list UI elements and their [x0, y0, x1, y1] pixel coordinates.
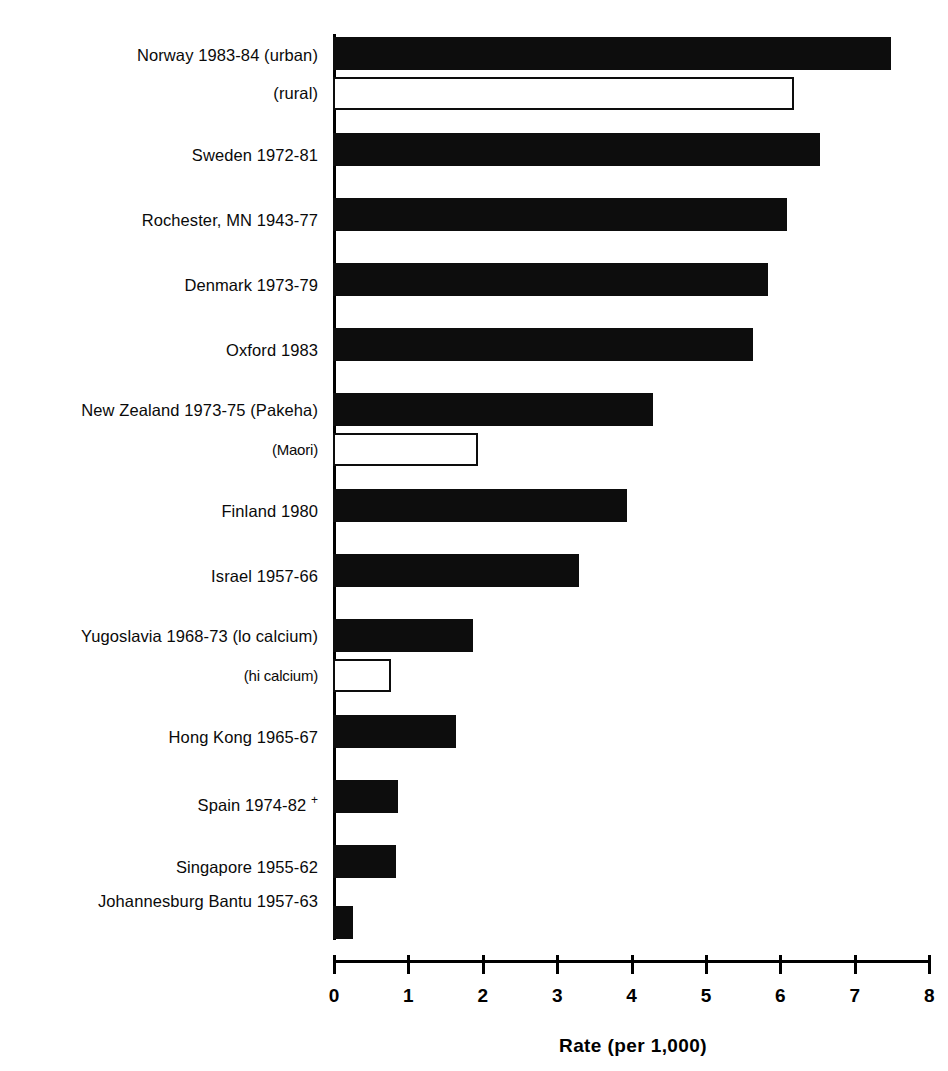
- category-label: (rural): [0, 85, 318, 102]
- x-axis-tick-label: 0: [319, 986, 349, 1005]
- category-label: Denmark 1973-79: [0, 277, 318, 294]
- x-axis-tick-label: 2: [468, 986, 498, 1005]
- category-label: Rochester, MN 1943-77: [0, 212, 318, 229]
- x-axis-tick-label: 8: [914, 986, 944, 1005]
- bar: [333, 845, 396, 878]
- x-axis-tick: [556, 955, 559, 974]
- category-label: (hi calcium): [0, 668, 318, 683]
- x-axis-tick-label: 1: [393, 986, 423, 1005]
- x-axis-tick: [407, 955, 410, 974]
- category-label-column: Norway 1983-84 (urban)(rural)Sweden 1972…: [0, 0, 318, 930]
- bar: [333, 489, 627, 522]
- bar: [333, 393, 653, 426]
- x-axis-tick: [631, 955, 634, 974]
- category-label: Johannesburg Bantu 1957-63: [0, 893, 318, 910]
- x-axis-title: Rate (per 1,000): [333, 1036, 933, 1055]
- bar: [333, 715, 456, 748]
- category-label: Norway 1983-84 (urban): [0, 47, 318, 64]
- category-label: Hong Kong 1965-67: [0, 729, 318, 746]
- x-axis-tick: [779, 955, 782, 974]
- bar: [333, 263, 768, 296]
- bar: [333, 133, 820, 166]
- x-axis-tick-label: 5: [691, 986, 721, 1005]
- x-axis-tick: [705, 955, 708, 974]
- bar-chart: Norway 1983-84 (urban)(rural)Sweden 1972…: [0, 0, 948, 1071]
- category-label: Spain 1974-82 +: [0, 794, 318, 813]
- footnote-marker: +: [311, 793, 318, 807]
- x-axis-tick: [482, 955, 485, 974]
- bar: [333, 37, 891, 70]
- bar: [333, 659, 391, 692]
- category-label: Singapore 1955-62: [0, 859, 318, 876]
- category-label: Yugoslavia 1968-73 (lo calcium): [0, 628, 318, 645]
- category-label: Finland 1980: [0, 503, 318, 520]
- category-label: New Zealand 1973-75 (Pakeha): [0, 402, 318, 419]
- x-axis-tick-label: 7: [840, 986, 870, 1005]
- x-axis-tick: [854, 955, 857, 974]
- category-label: Israel 1957-66: [0, 568, 318, 585]
- x-axis-tick-label: 6: [765, 986, 795, 1005]
- bar: [333, 433, 478, 466]
- plot-area: [333, 30, 933, 935]
- x-axis-tick-label: 3: [542, 986, 572, 1005]
- x-axis-tick-label: 4: [617, 986, 647, 1005]
- bar: [333, 198, 787, 231]
- bar: [333, 554, 579, 587]
- bar: [333, 328, 753, 361]
- category-label: Sweden 1972-81: [0, 147, 318, 164]
- bar: [333, 619, 473, 652]
- x-axis-tick: [928, 955, 931, 974]
- category-label: (Maori): [0, 442, 318, 457]
- bar: [333, 780, 398, 813]
- category-label: Oxford 1983: [0, 342, 318, 359]
- bar: [333, 906, 353, 939]
- x-axis: 012345678: [333, 960, 933, 1020]
- bar: [333, 77, 794, 110]
- x-axis-tick: [333, 955, 336, 974]
